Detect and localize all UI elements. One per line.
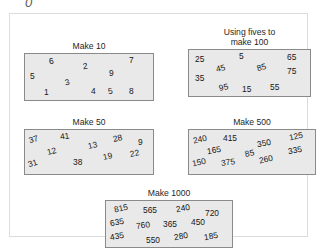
number-token[interactable]: 260 xyxy=(258,153,274,165)
number-token[interactable]: 720 xyxy=(205,209,219,218)
number-token[interactable]: 280 xyxy=(173,230,188,241)
number-token[interactable]: 85 xyxy=(244,148,255,159)
number-token[interactable]: 15 xyxy=(242,85,251,94)
number-token[interactable]: 5 xyxy=(107,86,113,96)
number-token[interactable]: 185 xyxy=(203,230,218,241)
number-box-make-10[interactable]: 6275931458 xyxy=(24,53,154,101)
number-token[interactable]: 5 xyxy=(30,72,35,81)
number-token[interactable]: 9 xyxy=(109,69,114,78)
number-box-make-500[interactable]: 24041535012516585335150375260 xyxy=(188,129,316,175)
number-token[interactable]: 565 xyxy=(143,206,157,215)
number-token[interactable]: 65 xyxy=(287,53,296,62)
number-token[interactable]: 25 xyxy=(195,55,204,64)
group-title-make-50: Make 50 xyxy=(24,117,154,127)
number-token[interactable]: 335 xyxy=(287,144,302,155)
number-token[interactable]: 75 xyxy=(287,67,296,76)
number-token[interactable]: 37 xyxy=(28,133,39,144)
group-title-make-500: Make 500 xyxy=(188,117,316,127)
number-token[interactable]: 4 xyxy=(91,87,96,96)
number-token[interactable]: 150 xyxy=(191,156,207,168)
number-token[interactable]: 450 xyxy=(191,218,205,227)
number-group-make-10: Make 106275931458 xyxy=(24,41,154,101)
number-token[interactable]: 435 xyxy=(109,230,124,241)
number-group-make-50: Make 503741132891219223138 xyxy=(24,117,154,175)
number-token[interactable]: 815 xyxy=(113,202,129,214)
number-token[interactable]: 6 xyxy=(48,56,54,66)
number-token[interactable]: 55 xyxy=(270,83,279,92)
number-token[interactable]: 240 xyxy=(175,202,190,213)
number-token[interactable]: 165 xyxy=(206,144,221,155)
number-token[interactable]: 22 xyxy=(129,148,140,159)
number-box-fives-100[interactable]: 2556545857535951555 xyxy=(188,49,311,97)
number-token[interactable]: 7 xyxy=(129,56,134,65)
scan-artifact-glyph: 0 xyxy=(25,0,32,9)
number-token[interactable]: 3 xyxy=(64,77,70,87)
number-token[interactable]: 12 xyxy=(46,146,57,157)
number-token[interactable]: 35 xyxy=(195,74,204,83)
number-token[interactable]: 760 xyxy=(135,220,150,231)
number-token[interactable]: 45 xyxy=(215,63,226,74)
number-token[interactable]: 8 xyxy=(129,87,134,96)
number-box-make-50[interactable]: 3741132891219223138 xyxy=(24,129,154,175)
number-token[interactable]: 240 xyxy=(192,133,208,145)
number-token[interactable]: 125 xyxy=(288,130,304,142)
number-group-make-1000: Make 10008155652407206357603654504355502… xyxy=(105,188,233,248)
number-token[interactable]: 95 xyxy=(218,82,229,93)
number-token[interactable]: 550 xyxy=(146,236,160,245)
group-title-make-1000: Make 1000 xyxy=(105,188,233,198)
group-title-make-10: Make 10 xyxy=(24,41,154,51)
number-group-make-500: Make 50024041535012516585335150375260 xyxy=(188,117,316,175)
number-token[interactable]: 28 xyxy=(112,133,123,144)
number-token[interactable]: 365 xyxy=(163,220,177,229)
number-token[interactable]: 5 xyxy=(239,52,244,61)
number-token[interactable]: 41 xyxy=(59,131,69,141)
number-token[interactable]: 415 xyxy=(223,134,237,143)
number-token[interactable]: 9 xyxy=(138,138,143,147)
number-token[interactable]: 350 xyxy=(256,137,271,148)
number-token[interactable]: 375 xyxy=(220,157,235,168)
number-group-fives-100: Using fives to make 10025565458575359515… xyxy=(188,27,311,97)
number-token[interactable]: 1 xyxy=(44,88,49,97)
number-token[interactable]: 38 xyxy=(73,158,82,167)
number-token[interactable]: 635 xyxy=(109,216,124,227)
worksheet-frame: Make 106275931458Using fives to make 100… xyxy=(9,13,308,237)
number-box-make-1000[interactable]: 815565240720635760365450435550280185 xyxy=(105,200,233,248)
number-token[interactable]: 2 xyxy=(82,61,88,71)
number-token[interactable]: 19 xyxy=(102,151,113,162)
number-token[interactable]: 85 xyxy=(256,61,267,72)
number-token[interactable]: 31 xyxy=(27,157,39,168)
number-token[interactable]: 13 xyxy=(87,140,98,151)
group-title-fives-100: Using fives to make 100 xyxy=(188,27,311,47)
